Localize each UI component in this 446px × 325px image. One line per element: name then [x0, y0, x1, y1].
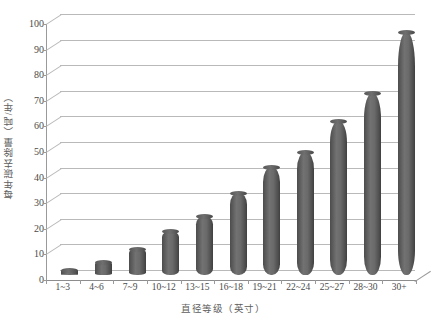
x-axis-tick-label: 30+	[377, 283, 421, 293]
y-axis-title-text: 每年碳去除量（吨/年）	[2, 91, 16, 199]
y-axis-tick-label: 30	[20, 198, 44, 208]
bar-top-cap	[61, 268, 78, 273]
y-axis-tick-label: 60	[20, 121, 44, 131]
bar	[263, 167, 280, 275]
y-axis-tick-label: 100	[20, 19, 44, 29]
y-axis-tick-label: 10	[20, 249, 44, 259]
x-axis-tick-labels: 1~34~67~910~1213~1516~1819~2122~2425~272…	[46, 283, 444, 299]
bar-top-cap	[129, 247, 146, 252]
bar	[61, 270, 78, 275]
y-axis-tick-label: 80	[20, 70, 44, 80]
bar-top-cap	[330, 119, 347, 124]
bar	[230, 193, 247, 275]
y-axis-tick-label: 70	[20, 96, 44, 106]
bar-top-cap	[95, 260, 112, 265]
bar-chart: 每年碳去除量（吨/年） 0102030405060708090100 1~34~…	[0, 0, 446, 325]
y-axis-tick-label: 50	[20, 147, 44, 157]
y-axis-tick-label: 40	[20, 173, 44, 183]
y-axis-tick-label: 90	[20, 45, 44, 55]
bar	[398, 32, 415, 275]
bar-top-cap	[364, 91, 381, 96]
y-axis-tick-labels: 0102030405060708090100	[18, 0, 44, 325]
bar-top-cap	[230, 191, 247, 196]
x-axis-title-text: 直径等级（英寸）	[181, 304, 265, 314]
bar	[364, 93, 381, 275]
bar	[196, 216, 213, 275]
bar-top-cap	[297, 150, 314, 155]
bar-top-cap	[162, 229, 179, 234]
bar-top-cap	[263, 165, 280, 170]
bar-top-cap	[196, 214, 213, 219]
x-axis-title: 直径等级（英寸）	[0, 301, 446, 315]
bar	[330, 121, 347, 275]
bar-series	[46, 12, 444, 281]
bar-top-cap	[398, 30, 415, 35]
y-axis-title: 每年碳去除量（吨/年）	[0, 0, 18, 290]
bar	[129, 249, 146, 275]
bar	[95, 262, 112, 275]
bar	[162, 231, 179, 275]
plot-area	[46, 12, 444, 290]
y-axis-tick-label: 20	[20, 224, 44, 234]
bar	[297, 152, 314, 275]
